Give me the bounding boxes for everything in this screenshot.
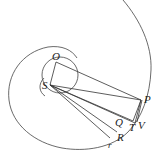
label-r: r — [108, 140, 112, 150]
label-V: V — [138, 119, 146, 131]
label-O: O — [52, 50, 60, 62]
spiral-orbit-diagram: O S P Q T V R r — [0, 0, 164, 157]
label-P: P — [143, 93, 151, 105]
label-R: R — [116, 131, 124, 143]
line-S-r — [50, 85, 110, 138]
label-T: T — [129, 121, 136, 133]
label-Q: Q — [115, 116, 123, 128]
line-S-O — [50, 62, 56, 85]
line-S-R — [50, 85, 117, 132]
line-O-P — [56, 62, 141, 100]
label-S: S — [42, 79, 48, 91]
